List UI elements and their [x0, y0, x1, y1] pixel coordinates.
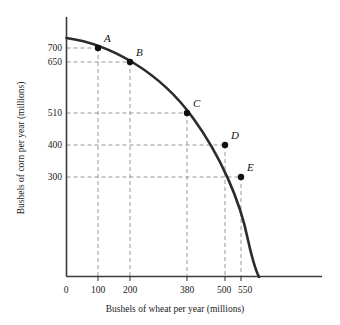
- data-point-b: [127, 59, 133, 65]
- y-tick-label-650: 650: [48, 57, 63, 67]
- data-point-c: [184, 110, 190, 116]
- y-tick-label-400: 400: [48, 140, 63, 150]
- x-tick-label-0: 0: [64, 285, 69, 295]
- data-point-e: [238, 174, 244, 180]
- y-tick-label-510: 510: [48, 108, 63, 118]
- x-tick-label-500: 500: [217, 285, 232, 295]
- point-label-a: A: [103, 32, 111, 44]
- data-point-d: [222, 142, 228, 148]
- point-label-b: B: [136, 46, 143, 58]
- x-tick-label-550: 550: [238, 285, 253, 295]
- ppf-plot-svg: A B C D E 700 650 510 400 300 0 100 200 …: [0, 0, 340, 325]
- x-tick-label-380: 380: [180, 285, 195, 295]
- data-point-a: [95, 45, 101, 51]
- ppf-curve: [67, 38, 260, 277]
- point-label-d: D: [230, 129, 239, 141]
- point-label-c: C: [193, 97, 201, 109]
- y-tick-label-300: 300: [48, 172, 63, 182]
- point-label-e: E: [246, 161, 254, 173]
- x-tick-label-200: 200: [123, 285, 138, 295]
- ppf-chart-figure: A B C D E 700 650 510 400 300 0 100 200 …: [0, 0, 340, 325]
- y-axis-label: Bushels of corn per year (millions): [16, 82, 27, 215]
- x-axis-label: Bushels of wheat per year (millions): [106, 304, 245, 315]
- data-points: [95, 45, 244, 180]
- x-tick-label-100: 100: [91, 285, 106, 295]
- guide-lines: [67, 48, 242, 276]
- y-tick-label-700: 700: [48, 43, 63, 53]
